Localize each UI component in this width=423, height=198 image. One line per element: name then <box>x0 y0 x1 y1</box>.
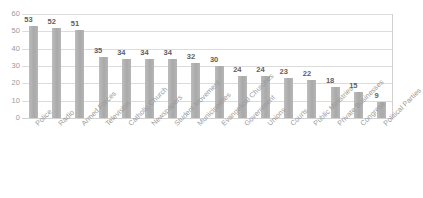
x-axis-tick: Congress <box>347 120 370 198</box>
bar[interactable] <box>52 28 61 118</box>
bar-value-label: 53 <box>17 16 40 24</box>
axis-right-border <box>392 14 393 119</box>
x-axis-tick: Newspapers <box>138 120 161 198</box>
bar-value-label: 22 <box>295 70 318 78</box>
y-axis-tick-label: 30 <box>2 62 20 70</box>
bar-slot <box>45 14 68 118</box>
x-axis-tick: Television <box>92 120 115 198</box>
bar-value-label: 34 <box>156 49 179 57</box>
x-axis-tick: Municipalities <box>184 120 207 198</box>
bar-slot <box>300 14 323 118</box>
bar-slot <box>277 14 300 118</box>
y-axis-tick-label: 40 <box>2 45 20 53</box>
x-axis-tick: Evangelical Churches <box>208 120 231 198</box>
x-axis-tick: Government <box>231 120 254 198</box>
x-axis-tick: Courts <box>277 120 300 198</box>
bar-value-label: 30 <box>203 56 226 64</box>
bar-value-label: 18 <box>319 77 342 85</box>
y-axis-tick-label: 20 <box>2 79 20 87</box>
x-axis-tick: Radio <box>45 120 68 198</box>
bar-value-label: 23 <box>272 68 295 76</box>
bar-value-label: 32 <box>179 53 202 61</box>
bar-value-label: 34 <box>110 49 133 57</box>
bar-value-label: 35 <box>87 47 110 55</box>
x-axis-tick: Public Ministries <box>300 120 323 198</box>
y-axis: 0102030405060 <box>0 0 20 198</box>
bar-slot <box>22 14 45 118</box>
y-axis-tick-label: 10 <box>2 97 20 105</box>
bar-value-label: 52 <box>40 18 63 26</box>
bar[interactable] <box>75 30 84 118</box>
x-axis-tick: Political Parties <box>370 120 393 198</box>
y-axis-tick-label: 50 <box>2 27 20 35</box>
x-axis-tick: Catholic Church <box>115 120 138 198</box>
bar-slot <box>68 14 91 118</box>
bar-value-label: 24 <box>226 66 249 74</box>
bar-value-label: 51 <box>63 20 86 28</box>
x-axis: PoliceRadioArmed ForcesTelevisionCatholi… <box>22 120 401 198</box>
y-axis-tick-label: 0 <box>2 114 20 122</box>
x-axis-tick: Unions <box>254 120 277 198</box>
bar-value-label: 34 <box>133 49 156 57</box>
bar[interactable] <box>29 26 38 118</box>
x-axis-tick: Armed Forces <box>68 120 91 198</box>
x-axis-tick: Student Movement <box>161 120 184 198</box>
x-axis-tick: Private Businesses <box>324 120 347 198</box>
x-axis-tick: Police <box>22 120 45 198</box>
